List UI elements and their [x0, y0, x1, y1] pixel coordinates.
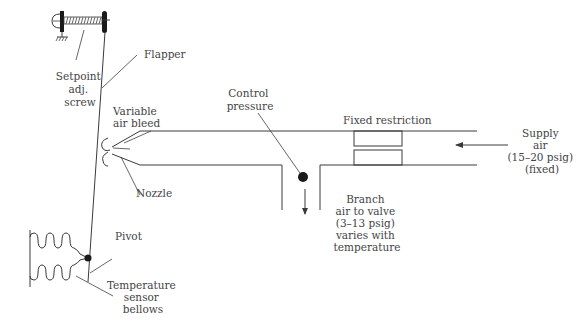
label-variable-air-bleed: Variable air bleed — [112, 105, 160, 129]
nozzle-lower — [103, 152, 108, 166]
label-flapper: Flapper — [144, 48, 187, 60]
fixed-restriction-upper — [354, 131, 402, 146]
label-nozzle: Nozzle — [136, 187, 172, 199]
arrow-down-icon — [302, 208, 308, 215]
pivot-point — [85, 255, 92, 262]
flapper-leader — [102, 55, 137, 88]
temperature-bellows — [30, 230, 88, 287]
arrow-left-icon — [455, 142, 463, 148]
nozzle-upper — [102, 138, 110, 151]
label-supply-air: Supply air (15–20 psig) (fixed) — [507, 127, 576, 175]
label-temperature-bellows: Temperature sensor bellows — [107, 279, 179, 315]
label-control-pressure: Control pressure — [227, 87, 274, 112]
label-branch-air: Branch air to valve (3–13 psig) varies w… — [334, 193, 401, 253]
fixed-restriction-lower — [354, 150, 402, 165]
label-fixed-restriction: Fixed restriction — [343, 114, 432, 126]
flapper-top — [102, 11, 107, 33]
label-setpoint: Setpoint adj. screw — [56, 70, 104, 108]
label-pivot: Pivot — [115, 230, 143, 242]
pivot-leader — [90, 259, 112, 273]
diagram-canvas: Flapper Setpoint adj. screw Variable air… — [0, 0, 578, 332]
setpoint-screw-assembly — [52, 11, 110, 41]
setpoint-leader — [76, 30, 84, 60]
screw-bracket — [60, 11, 64, 32]
control-pressure-leader — [258, 113, 302, 176]
bellows-lower — [30, 258, 88, 280]
control-pressure-point — [298, 172, 308, 182]
bellows-upper — [30, 233, 88, 258]
